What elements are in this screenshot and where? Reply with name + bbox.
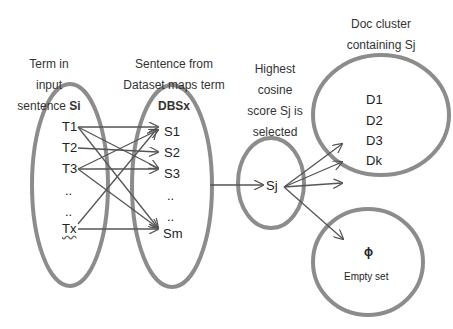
document-node: D1 (366, 92, 383, 107)
document-node: D2 (366, 113, 383, 128)
label-text: sentence (17, 99, 69, 113)
term-sentence-arrows (78, 127, 158, 229)
term-node: Tx (62, 221, 76, 236)
sentence-node: S1 (164, 124, 180, 139)
document-node: Dk (366, 153, 382, 168)
empty-set-ellipse (313, 209, 423, 315)
selected-sentence-node: Sj (266, 178, 278, 193)
label-line: selected (238, 122, 312, 143)
dataset-sentences-title: Sentence from Dataset maps term DBSx (118, 54, 230, 117)
label-line: Term in (14, 54, 84, 75)
input-terms-title: Term in input sentence Si (14, 54, 84, 117)
label-line: DBSx (118, 96, 230, 117)
sentence-node: S2 (164, 145, 180, 160)
term-ellipsis: .. (65, 183, 72, 198)
label-line: Highest (238, 59, 312, 80)
term-node: T1 (62, 119, 77, 134)
label-bold-text: Si (69, 99, 80, 113)
empty-set-label: Empty set (344, 271, 388, 282)
label-line: score Sj is (238, 101, 312, 122)
empty-set-symbol: ϕ (364, 245, 373, 259)
term-node: T3 (62, 161, 77, 176)
diagram-canvas: Term in input sentence Si Sentence from … (0, 0, 453, 329)
label-line: Dataset maps term (118, 75, 230, 96)
label-line: input (14, 75, 84, 96)
label-line: sentence Si (14, 96, 84, 117)
selection-title: Highest cosine score Sj is selected (238, 59, 312, 143)
document-node: D3 (366, 133, 383, 148)
doc-cluster-title: Doc cluster containing Sj (337, 14, 425, 56)
sentence-node: S3 (164, 166, 180, 181)
sentence-node: Sm (163, 226, 183, 241)
label-line: Doc cluster (337, 14, 425, 35)
label-line: containing Sj (337, 35, 425, 56)
sentence-ellipsis: .. (167, 209, 174, 224)
sentence-ellipsis: .. (167, 188, 174, 203)
label-line: cosine (238, 80, 312, 101)
term-ellipsis: .. (65, 204, 72, 219)
term-node: T2 (62, 140, 77, 155)
label-line: Sentence from (118, 54, 230, 75)
